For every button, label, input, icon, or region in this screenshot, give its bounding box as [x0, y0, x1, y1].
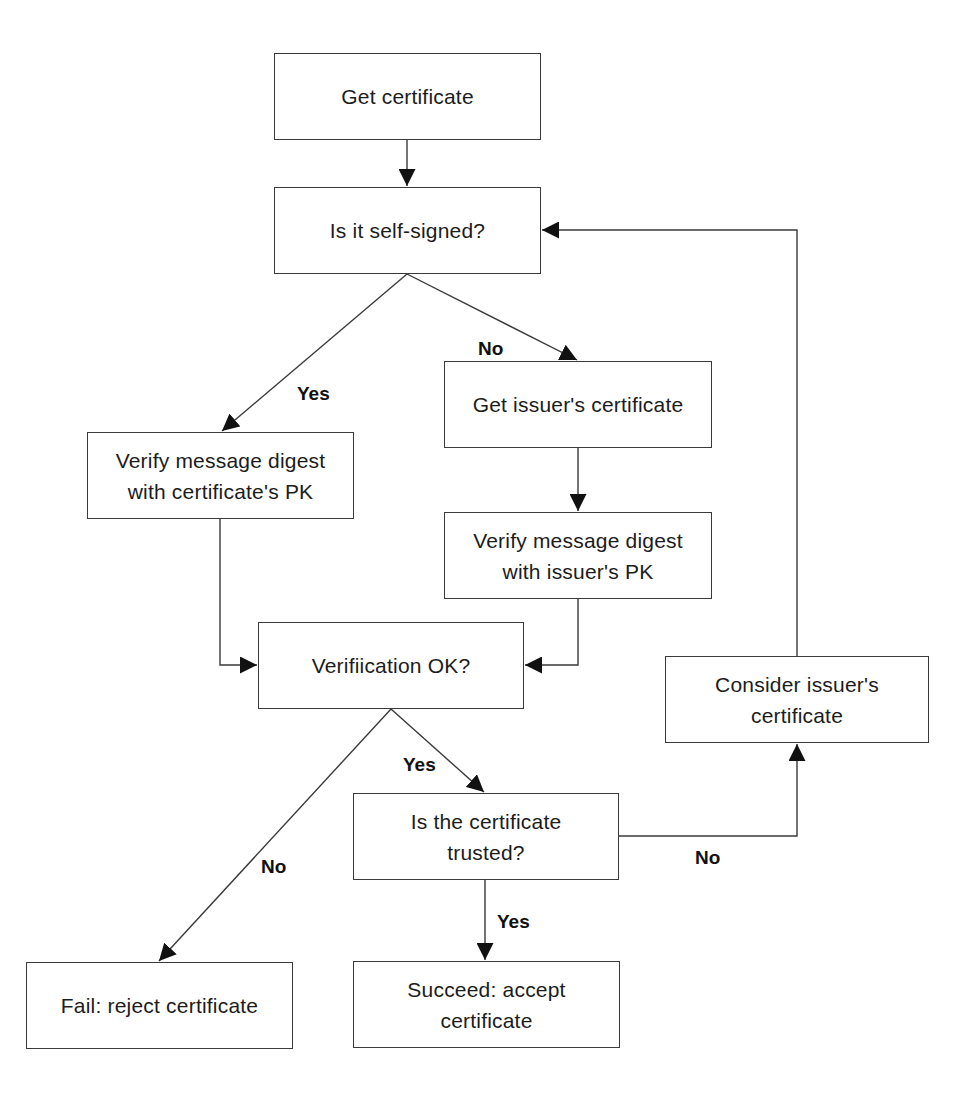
node-text: Fail: reject certificate [61, 990, 258, 1021]
node-is-self-signed: Is it self-signed? [274, 187, 541, 274]
node-text: Succeed: accept certificate [407, 974, 565, 1036]
node-consider-issuer-certificate: Consider issuer's certificate [665, 656, 929, 743]
node-text: Is it self-signed? [330, 215, 485, 246]
node-text: Verify message digest with issuer's PK [473, 525, 683, 587]
node-text: Verify message digest with certificate's… [116, 445, 326, 507]
edge-label-verification-yes: Yes [403, 755, 436, 775]
node-is-certificate-trusted: Is the certificate trusted? [353, 793, 619, 880]
edge-verifyissuer-to-ok [525, 599, 578, 665]
edge-selfsigned-yes [222, 274, 407, 431]
node-fail-reject: Fail: reject certificate [26, 962, 293, 1049]
edge-trusted-no [619, 744, 797, 836]
edge-label-trusted-no: No [695, 848, 720, 868]
certificate-validation-flowchart: Get certificate Is it self-signed? Verif… [0, 0, 976, 1105]
node-verify-with-certificate-pk: Verify message digest with certificate's… [87, 432, 354, 519]
node-text: Consider issuer's certificate [715, 669, 879, 731]
node-get-certificate: Get certificate [274, 53, 541, 140]
edge-label-trusted-yes: Yes [497, 912, 530, 932]
node-text: Get issuer's certificate [473, 389, 684, 420]
edge-verifycert-to-ok [220, 519, 257, 665]
node-text: Verifiication OK? [312, 650, 471, 681]
node-text: Is the certificate trusted? [411, 806, 562, 868]
node-succeed-accept: Succeed: accept certificate [353, 961, 620, 1048]
edge-ok-yes [391, 709, 484, 792]
node-verify-with-issuer-pk: Verify message digest with issuer's PK [444, 512, 712, 599]
edge-label-verification-no: No [261, 857, 286, 877]
edge-label-self-signed-no: No [478, 339, 503, 359]
edge-label-self-signed-yes: Yes [297, 384, 330, 404]
node-text: Get certificate [341, 81, 474, 112]
node-get-issuer-certificate: Get issuer's certificate [444, 361, 712, 448]
node-verification-ok: Verifiication OK? [258, 622, 524, 709]
